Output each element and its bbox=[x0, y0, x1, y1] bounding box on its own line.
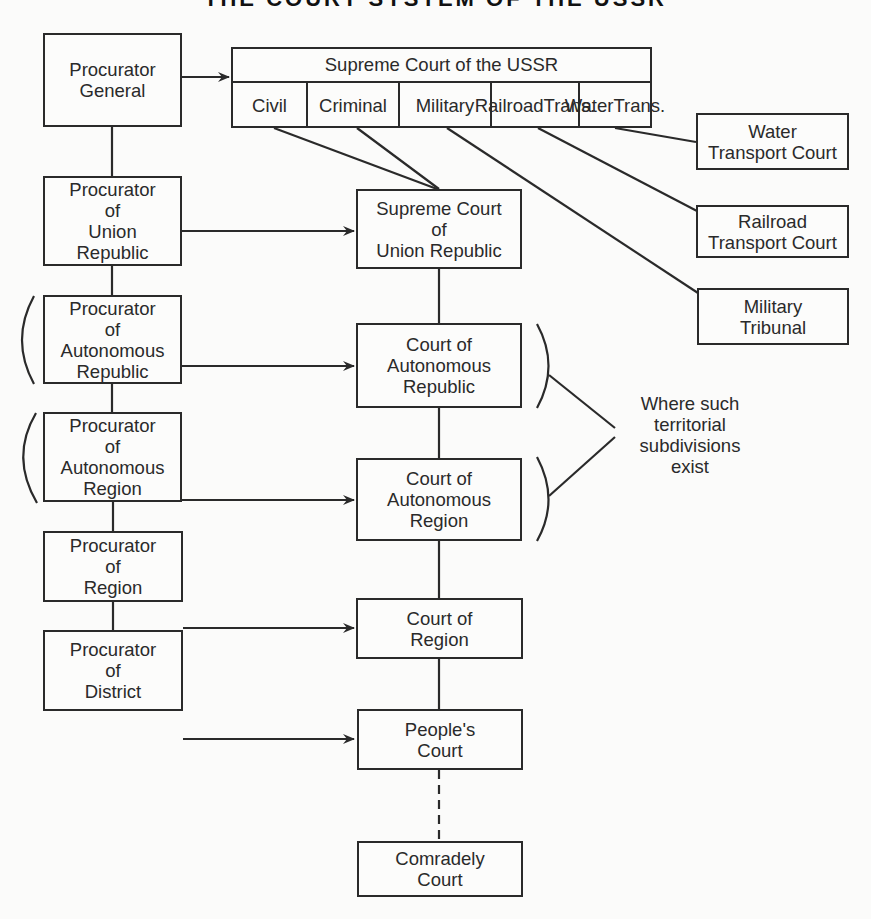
division-label: Criminal bbox=[319, 95, 387, 116]
box-label: Transport Court bbox=[708, 232, 837, 253]
division-label: Civil bbox=[252, 95, 287, 116]
comradely-court-box: ComradelyCourt bbox=[357, 841, 523, 897]
box-label: Railroad bbox=[708, 211, 837, 232]
note-line: territorial bbox=[620, 414, 760, 435]
procurator-general-box: ProcuratorGeneral bbox=[43, 33, 182, 127]
court-autonomous-republic-box: Court ofAutonomousRepublic bbox=[356, 323, 522, 408]
box-label: Court of bbox=[387, 468, 491, 489]
court-region-box: Court ofRegion bbox=[356, 598, 523, 659]
box-label: Procurator bbox=[69, 179, 155, 200]
box-label: Republic bbox=[61, 361, 165, 382]
box-label: Autonomous bbox=[61, 340, 165, 361]
box-label: Procurator bbox=[70, 639, 156, 660]
division-water-trans: WaterTrans. bbox=[578, 83, 650, 128]
box-label: of bbox=[376, 219, 501, 240]
box-label: Military bbox=[740, 296, 806, 317]
box-label: of bbox=[70, 556, 156, 577]
box-label: Autonomous bbox=[61, 457, 165, 478]
box-label: Union bbox=[69, 221, 155, 242]
procurator-autonomous-republic-box: ProcuratorofAutonomousRepublic bbox=[43, 295, 182, 384]
box-label: People's bbox=[405, 719, 475, 740]
procurator-autonomous-region-box: ProcuratorofAutonomousRegion bbox=[43, 412, 182, 502]
water-transport-court-box: WaterTransport Court bbox=[696, 113, 849, 170]
division-label: Trans. bbox=[613, 95, 665, 116]
court-autonomous-region-box: Court ofAutonomousRegion bbox=[356, 458, 522, 541]
box-label: of bbox=[61, 319, 165, 340]
box-label: Comradely bbox=[395, 848, 484, 869]
note-line: exist bbox=[620, 456, 760, 477]
box-label: Region bbox=[407, 629, 473, 650]
box-label: Autonomous bbox=[387, 355, 491, 376]
box-label: Court of bbox=[387, 334, 491, 355]
territorial-subdivisions-note: Where such territorial subdivisions exis… bbox=[620, 393, 760, 477]
supreme-court-ussr-title: Supreme Court of the USSR bbox=[233, 49, 650, 83]
box-label: Union Republic bbox=[376, 240, 501, 261]
box-label: Procurator bbox=[61, 298, 165, 319]
box-label: Transport Court bbox=[708, 142, 837, 163]
procurator-union-republic-box: ProcuratorofUnionRepublic bbox=[43, 176, 182, 266]
division-label: Water bbox=[565, 95, 614, 116]
box-label: of bbox=[70, 660, 156, 681]
box-label: of bbox=[69, 200, 155, 221]
box-label: Court bbox=[405, 740, 475, 761]
box-label: Tribunal bbox=[740, 317, 806, 338]
division-criminal: Criminal bbox=[306, 83, 398, 128]
procurator-region-box: ProcuratorofRegion bbox=[43, 531, 183, 602]
supreme-court-divisions: Civil Criminal Military RailroadTrans. W… bbox=[233, 83, 650, 128]
box-label: Procurator bbox=[70, 535, 156, 556]
box-label: Court of bbox=[407, 608, 473, 629]
note-line: subdivisions bbox=[620, 435, 760, 456]
division-label: Railroad bbox=[475, 95, 544, 116]
box-label: Republic bbox=[387, 376, 491, 397]
railroad-transport-court-box: RailroadTransport Court bbox=[696, 205, 849, 258]
box-label: District bbox=[70, 681, 156, 702]
box-label: Procurator bbox=[69, 59, 155, 80]
supreme-court-ussr-box: Supreme Court of the USSR Civil Criminal… bbox=[231, 47, 652, 128]
supreme-court-union-republic-box: Supreme CourtofUnion Republic bbox=[356, 189, 522, 269]
box-label: of bbox=[61, 436, 165, 457]
box-label: Autonomous bbox=[387, 489, 491, 510]
box-label: Region bbox=[61, 478, 165, 499]
peoples-court-box: People'sCourt bbox=[357, 709, 523, 770]
procurator-district-box: ProcuratorofDistrict bbox=[43, 630, 183, 711]
box-label: Region bbox=[70, 577, 156, 598]
box-label: Region bbox=[387, 510, 491, 531]
division-label: Military bbox=[416, 95, 475, 116]
box-label: Procurator bbox=[61, 415, 165, 436]
box-label: Republic bbox=[69, 242, 155, 263]
box-label: Supreme Court bbox=[376, 198, 501, 219]
box-label: General bbox=[69, 80, 155, 101]
military-tribunal-box: MilitaryTribunal bbox=[697, 288, 849, 345]
box-label: Water bbox=[708, 121, 837, 142]
division-civil: Civil bbox=[233, 83, 306, 128]
note-line: Where such bbox=[620, 393, 760, 414]
box-label: Court bbox=[395, 869, 484, 890]
